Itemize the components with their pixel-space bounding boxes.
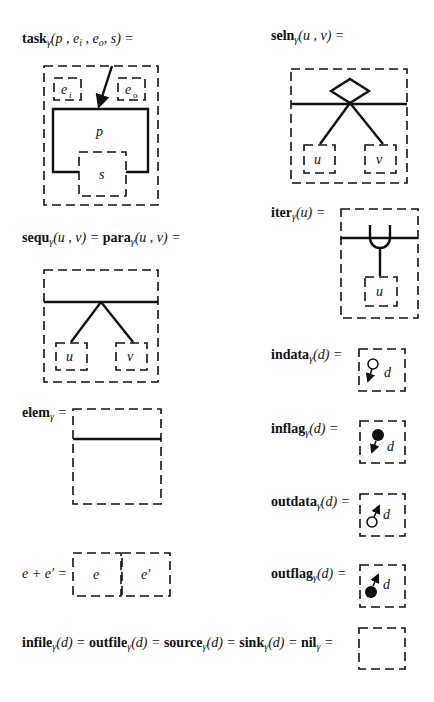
seln-branch-v (350, 103, 383, 144)
task-ei-box (54, 78, 81, 100)
outflag-d-text: d (383, 577, 391, 592)
iter-diagram: u (341, 209, 418, 318)
task-diagram: e i e o p s (44, 66, 158, 205)
inflag-dot-icon (372, 429, 384, 441)
iter-u-text: u (376, 284, 383, 299)
sum-e2-text: e′ (141, 567, 151, 582)
inflag-diagram: d (360, 421, 405, 463)
nil-box (359, 628, 405, 669)
task-ei-text: e (61, 82, 67, 97)
seln-diamond-icon (331, 79, 369, 103)
task-ei-sub: i (69, 90, 72, 100)
outflag-diagram: d (360, 565, 405, 607)
indata-arrow-icon (368, 369, 372, 381)
outdata-diagram: d (360, 494, 405, 536)
sequ-u-text: u (66, 349, 73, 364)
outdata-d-text: d (383, 507, 391, 522)
indata-box (359, 349, 405, 391)
indata-d-text: d (384, 365, 392, 380)
nil-diagram (359, 628, 405, 669)
inflag-box (360, 421, 405, 463)
seln-v-text: v (376, 152, 383, 167)
sequ-branch-v (101, 302, 133, 342)
seln-branch-u (320, 103, 350, 144)
sequ-diagram: u v (44, 270, 158, 382)
sequ-v-text: v (127, 349, 134, 364)
seln-u-text: u (314, 152, 321, 167)
outdata-circle-icon (367, 517, 377, 527)
task-p-text: p (95, 124, 103, 139)
task-eo-sub: o (133, 90, 138, 100)
outdata-arrow-icon (374, 506, 379, 517)
task-s-text: s (99, 167, 105, 182)
inflag-d-text: d (387, 439, 395, 454)
outflag-dot-icon (365, 586, 377, 598)
indata-diagram: d (359, 349, 405, 391)
inflag-arrow-icon (372, 441, 376, 452)
sequ-outer-box (44, 270, 158, 382)
elem-box (73, 409, 161, 504)
task-p-box (53, 109, 148, 172)
sequ-branch-u (71, 302, 101, 342)
seln-outer-box (291, 69, 407, 183)
task-eo-box (118, 78, 145, 100)
sum-diagram: e e′ (73, 553, 170, 596)
elem-diagram (73, 409, 161, 504)
diagrams-canvas: e i e o p s u v u u (0, 0, 434, 702)
task-eo-text: e (125, 82, 131, 97)
indata-circle-icon (368, 359, 378, 369)
seln-diagram: u v (291, 69, 407, 183)
sum-e-text: e (93, 567, 99, 582)
task-arrow-icon (99, 66, 112, 106)
outflag-arrow-icon (373, 575, 378, 586)
iter-loop-icon (370, 225, 390, 248)
